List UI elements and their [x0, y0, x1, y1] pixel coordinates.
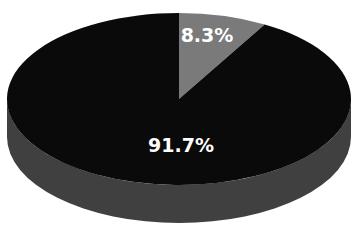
pie-slice-1 — [7, 13, 351, 185]
slice-label-large: 91.7% — [148, 134, 214, 156]
slice-label-small: 8.3% — [181, 24, 234, 46]
pie-chart-3d: 8.3% 91.7% — [0, 0, 358, 245]
pie-top-face — [7, 13, 351, 185]
